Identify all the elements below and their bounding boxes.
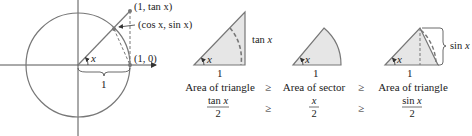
sin-text: sin xyxy=(450,40,465,51)
formula-tan: tan x 2 xyxy=(207,95,229,119)
side-label: tan x xyxy=(252,34,272,45)
numerator: x xyxy=(311,95,317,106)
large-triangle-shape xyxy=(194,12,245,65)
base-label: 1 xyxy=(217,67,223,79)
panel-sector: x 1 xyxy=(293,28,341,79)
point-tan-label: (1, tan x) xyxy=(134,1,173,13)
angle-label: x xyxy=(396,53,402,65)
formulas-row: tan x 2 ≥ x 2 ≥ sin x 2 xyxy=(207,95,422,119)
angle-label: x xyxy=(304,53,310,65)
point-cos-sin-label: (cos x, sin x) xyxy=(138,19,193,31)
x-var: x xyxy=(266,34,272,45)
caption-triangle-small: Area of triangle xyxy=(378,81,448,93)
unit-circle-figure: x 1 (1, tan x) (cos x, sin x) (1, 0) xyxy=(0,0,193,136)
small-triangle-shape xyxy=(385,28,438,65)
caption-sector: Area of sector xyxy=(283,81,346,93)
cos-sin-pointer xyxy=(119,25,135,27)
numerator: tan x xyxy=(208,95,228,106)
denominator: 2 xyxy=(409,108,414,119)
numerator: sin x xyxy=(402,95,422,106)
chord-dashed-line xyxy=(114,29,130,65)
comparator-1: ≥ xyxy=(265,81,271,93)
side-label: sin x xyxy=(450,40,470,51)
panel-small-triangle: x 1 sin x xyxy=(385,28,470,79)
angle-arc xyxy=(86,58,89,66)
comparator-2: ≥ xyxy=(358,81,364,93)
point-one-zero xyxy=(128,63,132,67)
comparator-1-formula: ≥ xyxy=(265,102,271,114)
radius-label: 1 xyxy=(101,78,107,90)
comparator-2-formula: ≥ xyxy=(358,102,364,114)
tan-text: tan xyxy=(252,34,267,45)
caption-triangle-large: Area of triangle xyxy=(185,81,255,93)
angle-label: x xyxy=(90,52,96,64)
angle-label: x xyxy=(206,53,212,65)
radius-brace xyxy=(78,68,130,76)
captions-row: Area of triangle ≥ Area of sector ≥ Area… xyxy=(185,81,448,93)
point-one-zero-label: (1, 0) xyxy=(134,53,157,65)
denominator: 2 xyxy=(311,108,316,119)
panel-large-triangle: x 1 tan x xyxy=(194,12,272,79)
sector-shape xyxy=(293,28,341,65)
base-label: 1 xyxy=(313,67,319,79)
formula-sector: x 2 xyxy=(309,95,319,119)
point-tan xyxy=(128,9,132,13)
x-var: x xyxy=(464,40,470,51)
formula-sin: sin x 2 xyxy=(402,95,422,119)
base-label: 1 xyxy=(407,67,413,79)
diagram-canvas: x 1 (1, tan x) (cos x, sin x) (1, 0) x 1… xyxy=(0,0,472,136)
denominator: 2 xyxy=(215,108,220,119)
point-cos-sin xyxy=(112,27,116,31)
